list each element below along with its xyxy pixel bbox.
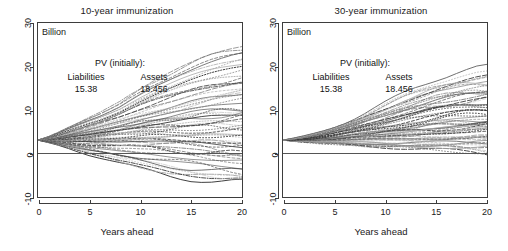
- unit-label: Billion: [287, 27, 311, 37]
- panel-30-year: 30-year immunization 30 20 10 0 -10 Bill…: [254, 0, 508, 251]
- x-tick-5: [335, 200, 336, 204]
- pv-liabilities-label: Liabilities: [306, 71, 356, 84]
- y-tick-20: [30, 67, 34, 68]
- x-tick-0: [284, 200, 285, 204]
- pv-assets-label: Assets: [374, 71, 424, 84]
- plot-area: [283, 23, 487, 197]
- panel-10-year: 10-year immunization 30 20 10 0 -10 Bill…: [0, 0, 254, 251]
- panel-title: 30-year immunization: [254, 5, 508, 16]
- pv-labels-row: Liabilities Assets: [45, 71, 195, 84]
- y-tick-10: [30, 111, 34, 112]
- y-tick-30: [30, 23, 34, 24]
- pv-values-row: 15.38 18.456: [290, 83, 440, 96]
- x-tick-5: [90, 200, 91, 204]
- x-tick-0: [39, 200, 40, 204]
- x-tick-10: [141, 200, 142, 204]
- pv-liabilities-value: 15.38: [61, 83, 111, 96]
- trajectory-fan: [283, 23, 487, 197]
- plot-area: [38, 23, 242, 197]
- trajectory-fan: [38, 23, 242, 197]
- y-tick-0: [30, 154, 34, 155]
- x-axis-label: Years ahead: [0, 226, 254, 237]
- pv-header: PV (initially):: [290, 57, 440, 70]
- x-tick-label-0: 0: [29, 207, 49, 217]
- pv-annotation: PV (initially): Liabilities Assets 15.38…: [45, 57, 195, 96]
- y-tick-20: [275, 67, 279, 68]
- x-tick-15: [436, 200, 437, 204]
- y-tick-neg10: [275, 198, 279, 199]
- pv-header: PV (initially):: [45, 57, 195, 70]
- pv-labels-row: Liabilities Assets: [290, 71, 440, 84]
- pv-assets-value: 18.456: [129, 83, 179, 96]
- pv-liabilities-label: Liabilities: [61, 71, 111, 84]
- y-tick-10: [275, 111, 279, 112]
- pv-assets-label: Assets: [129, 71, 179, 84]
- y-tick-label-neg10: -10: [23, 190, 33, 208]
- y-tick-0: [275, 154, 279, 155]
- x-tick-label-10: 10: [376, 207, 396, 217]
- x-tick-label-20: 20: [477, 207, 497, 217]
- pv-annotation: PV (initially): Liabilities Assets 15.38…: [290, 57, 440, 96]
- x-axis-label: Years ahead: [254, 226, 508, 237]
- x-tick-15: [191, 200, 192, 204]
- x-tick-20: [242, 200, 243, 204]
- x-tick-10: [386, 200, 387, 204]
- y-tick-30: [275, 23, 279, 24]
- figure-root: 10-year immunization 30 20 10 0 -10 Bill…: [0, 0, 508, 251]
- pv-assets-value: 18.456: [374, 83, 424, 96]
- x-tick-label-0: 0: [274, 207, 294, 217]
- pv-values-row: 15.38 18.456: [45, 83, 195, 96]
- x-tick-label-5: 5: [80, 207, 100, 217]
- x-tick-label-10: 10: [131, 207, 151, 217]
- x-tick-label-5: 5: [325, 207, 345, 217]
- y-tick-neg10: [30, 198, 34, 199]
- panel-title: 10-year immunization: [0, 5, 254, 16]
- pv-liabilities-value: 15.38: [306, 83, 356, 96]
- x-tick-label-15: 15: [426, 207, 446, 217]
- unit-label: Billion: [42, 27, 66, 37]
- y-tick-label-neg10: -10: [268, 190, 278, 208]
- x-tick-20: [487, 200, 488, 204]
- x-tick-label-15: 15: [181, 207, 201, 217]
- x-tick-label-20: 20: [232, 207, 252, 217]
